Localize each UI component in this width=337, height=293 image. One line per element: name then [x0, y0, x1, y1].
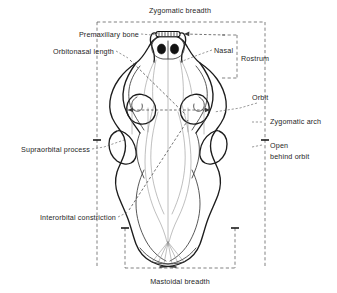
- leader-open-behind-orbit: [252, 145, 262, 147]
- premaxillary-tooth-bar: [156, 32, 180, 37]
- label-open-behind-orbit-line2: behind orbit: [270, 152, 309, 161]
- leader-orbitonasal-length: [116, 51, 128, 58]
- measurement-tick-marks: [93, 140, 269, 228]
- premaxilla-arrow: [184, 32, 225, 37]
- mastoidal-breadth-frame: [125, 228, 235, 268]
- orbitonasal-measure-line: [130, 60, 186, 115]
- parietal-ridge-left: [145, 105, 167, 242]
- label-nasal: Nasal: [214, 46, 233, 55]
- leader-lines: [92, 33, 262, 217]
- label-interorbital-constriction: Interorbital constriction: [40, 213, 116, 222]
- parietal-ridge-left-2: [151, 112, 164, 214]
- label-rostrum: Rostrum: [241, 54, 269, 63]
- maxilla-line-right: [180, 60, 183, 102]
- leader-orbit: [214, 103, 257, 112]
- orbit-left-inner-curl: [132, 97, 143, 111]
- label-premaxillary-bone: Premaxillary bone: [79, 30, 139, 39]
- orbit-right-inner-curl: [194, 97, 205, 111]
- occipital-outline: [140, 248, 196, 264]
- label-orbit: Orbit: [252, 93, 268, 102]
- rostrum-bracket: [222, 35, 237, 78]
- temporal-line-left: [137, 133, 144, 178]
- maxilla-line-left: [153, 60, 156, 102]
- skull-drawing: [109, 32, 227, 268]
- braincase-right: [170, 170, 200, 261]
- temporal-line-right: [192, 133, 199, 178]
- left-naris: [157, 44, 165, 54]
- label-orbitonasal-length: Orbitonasal length: [53, 47, 114, 56]
- label-supraorbital-process: Supraorbital process: [21, 145, 90, 154]
- label-zygomatic-breadth: Zygomatic breadth: [149, 6, 211, 15]
- label-open-behind-orbit-line1: Open: [270, 141, 288, 150]
- skull-diagram-svg: Zygomatic breadth Premaxillary bone Orbi…: [0, 0, 337, 293]
- parietal-ridge-right: [169, 105, 191, 242]
- skull-left-outline: [110, 36, 176, 267]
- label-mastoidal-breadth: Mastoidal breadth: [150, 277, 210, 286]
- right-naris: [170, 44, 178, 54]
- braincase-left: [136, 170, 166, 261]
- label-zygomatic-arch: Zygomatic arch: [270, 117, 321, 126]
- skull-right-outline: [160, 36, 226, 267]
- skull-diagram-figure: Zygomatic breadth Premaxillary bone Orbi…: [0, 0, 337, 293]
